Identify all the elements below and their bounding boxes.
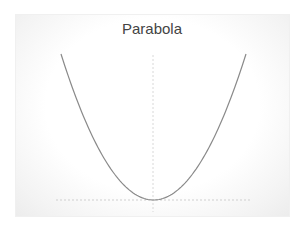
chart-plot	[0, 0, 304, 245]
